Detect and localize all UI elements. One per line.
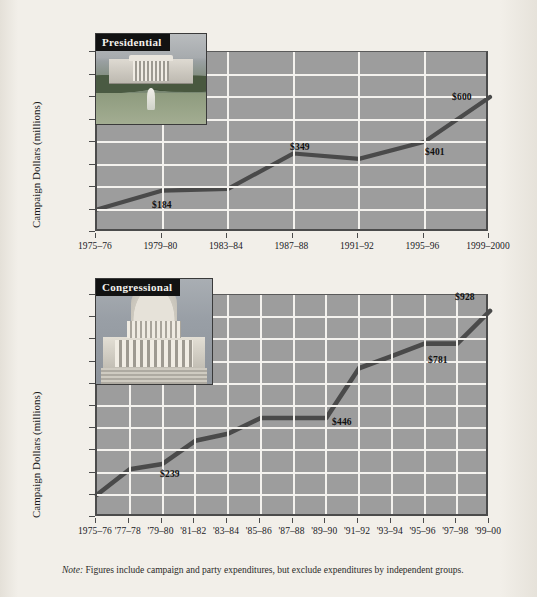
presidential-label-349: $349: [290, 142, 310, 152]
presidential-photo-box: Presidential: [95, 33, 207, 125]
presidential-chart-title: Presidential: [96, 34, 170, 51]
x-tick-mark: [357, 518, 358, 523]
presidential-x-tick-labels: 1975–761979–801983–841987–881991–921995–…: [0, 0, 537, 270]
congressional-photo-box: Congressional: [95, 278, 213, 385]
figure-campaign-spending: Campaign Dollars (millions) $80070060050…: [0, 0, 537, 597]
congressional-label-446: $446: [332, 417, 352, 427]
x-tick-mark: [226, 233, 227, 238]
x-tick-mark: [488, 233, 489, 238]
congressional-chart: Campaign Dollars (millions) $10009008007…: [0, 270, 537, 560]
x-tick-mark: [128, 518, 129, 523]
congressional-x-tick-labels: 1975–76'77–78'79–80'81–82'83–84'85–86'87…: [0, 270, 537, 560]
figure-note-text: Figures include campaign and party expen…: [83, 565, 463, 575]
presidential-label-600: $600: [452, 92, 472, 102]
presidential-chart: Campaign Dollars (millions) $80070060050…: [0, 0, 537, 270]
x-tick-mark: [292, 233, 293, 238]
x-tick-mark: [292, 518, 293, 523]
congressional-label-781: $781: [428, 355, 448, 365]
congressional-chart-title: Congressional: [96, 279, 180, 296]
figure-note: Note: Figures include campaign and party…: [62, 565, 464, 575]
congressional-label-928: $928: [455, 292, 475, 302]
presidential-label-401: $401: [425, 147, 445, 157]
x-tick-mark: [423, 518, 424, 523]
x-tick-mark: [390, 518, 391, 523]
x-tick-mark: [357, 233, 358, 238]
x-tick-mark: [95, 233, 96, 238]
x-tick-mark: [455, 518, 456, 523]
x-tick-mark: [161, 233, 162, 238]
x-tick-label: '99–00: [448, 526, 528, 536]
x-tick-mark: [193, 518, 194, 523]
x-tick-mark: [95, 518, 96, 523]
x-tick-mark: [161, 518, 162, 523]
figure-note-label: Note:: [62, 565, 83, 575]
presidential-label-184: $184: [152, 200, 172, 210]
x-tick-mark: [423, 233, 424, 238]
x-tick-mark: [324, 518, 325, 523]
x-tick-mark: [488, 518, 489, 523]
x-tick-label: 1999–2000: [448, 241, 528, 251]
congressional-label-239: $239: [160, 469, 180, 479]
x-tick-mark: [259, 518, 260, 523]
x-tick-mark: [226, 518, 227, 523]
